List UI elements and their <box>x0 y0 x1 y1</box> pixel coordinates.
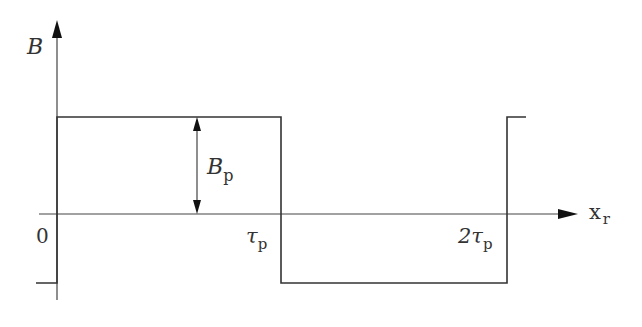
amplitude-label-main: B <box>206 154 223 179</box>
y-axis-arrow-icon <box>52 20 62 38</box>
amplitude-label-sub: p <box>223 166 233 185</box>
tick-label-two-tau-main: 2τ <box>457 224 483 248</box>
tick-label-tau-main: τ <box>246 224 258 248</box>
x-axis-arrow-icon <box>558 209 578 219</box>
tick-label-tau-sub: p <box>258 235 268 253</box>
tick-label-two-tau-sub: p <box>483 235 493 253</box>
amplitude-arrow-down-icon <box>193 200 201 214</box>
x-axis-label: xr <box>589 200 611 228</box>
x-axis-label-sub: r <box>603 210 611 228</box>
square-wave-diagram: B Bp 0 τp 2τp xr <box>0 0 642 327</box>
tick-label-tau: τp <box>246 224 267 253</box>
x-axis-label-main: x <box>589 200 601 224</box>
tick-label-origin: 0 <box>36 224 49 248</box>
square-wave-line <box>36 117 526 283</box>
amplitude-arrow-up-icon <box>193 117 201 131</box>
y-axis-label: B <box>26 34 43 59</box>
tick-label-two-tau: 2τp <box>457 224 493 253</box>
amplitude-label: Bp <box>206 154 233 185</box>
